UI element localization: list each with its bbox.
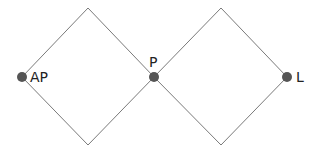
node-l-dot: [282, 72, 292, 82]
edge-bottom-right-l: [221, 77, 287, 145]
node-p-label: P: [149, 54, 157, 70]
edge-p-top-right: [154, 8, 221, 77]
diamond-diagram: AP P L: [0, 0, 318, 153]
edge-bottom-left-p: [88, 77, 154, 145]
edge-top-left-p: [88, 8, 154, 77]
node-l-label: L: [296, 69, 304, 85]
edge-top-right-l: [221, 8, 287, 77]
node-p-dot: [149, 72, 159, 82]
node-ap: AP: [17, 69, 48, 85]
edge-ap-bottom-left: [22, 77, 88, 145]
node-l: L: [282, 69, 304, 85]
node-ap-dot: [17, 72, 27, 82]
nodes-group: AP P L: [17, 54, 304, 85]
edge-p-bottom-right: [154, 77, 221, 145]
node-ap-label: AP: [30, 69, 48, 85]
edge-ap-top-left: [22, 8, 88, 77]
node-p: P: [149, 54, 159, 82]
